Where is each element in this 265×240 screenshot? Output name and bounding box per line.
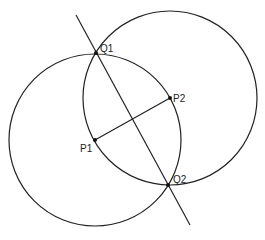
- segment-P1-P2: [95, 98, 170, 140]
- point-Q2: [166, 183, 170, 187]
- point-P1: [93, 138, 97, 142]
- point-P2: [168, 96, 172, 100]
- label-P1: P1: [80, 143, 93, 154]
- label-Q2: Q2: [173, 174, 187, 185]
- diagram-canvas: Q1 Q2 P1 P2: [0, 0, 265, 240]
- construction-figure: Q1 Q2 P1 P2: [0, 0, 265, 240]
- point-Q1: [94, 51, 98, 55]
- label-Q1: Q1: [100, 43, 114, 54]
- label-P2: P2: [173, 93, 186, 104]
- bisector-line: [76, 15, 190, 225]
